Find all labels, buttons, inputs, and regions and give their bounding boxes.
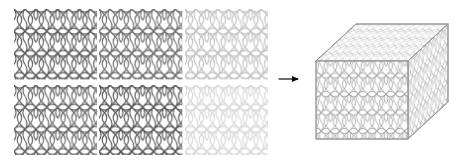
pattern-tile-surface bbox=[14, 9, 97, 80]
pattern-panel-r2c3 bbox=[185, 85, 268, 156]
arrow-icon bbox=[278, 73, 306, 85]
figure-canvas bbox=[0, 0, 459, 163]
pattern-panel-r1c2 bbox=[99, 9, 182, 80]
cube-drawing bbox=[312, 14, 452, 150]
pattern-tile-surface bbox=[185, 85, 268, 156]
pattern-panel-r2c2 bbox=[99, 85, 182, 156]
patterned-cube bbox=[312, 14, 452, 150]
pattern-panel-r1c1 bbox=[14, 9, 97, 80]
pattern-tile-surface bbox=[185, 9, 268, 80]
pattern-panel-r1c3 bbox=[185, 9, 268, 80]
pattern-tile-surface bbox=[14, 85, 97, 156]
pattern-tile-surface bbox=[99, 85, 182, 156]
transform-arrow bbox=[278, 73, 306, 85]
pattern-tile-surface bbox=[99, 9, 182, 80]
pattern-panel-r2c1 bbox=[14, 85, 97, 156]
pattern-panel-grid bbox=[14, 9, 268, 155]
cube-face-front bbox=[316, 61, 408, 139]
